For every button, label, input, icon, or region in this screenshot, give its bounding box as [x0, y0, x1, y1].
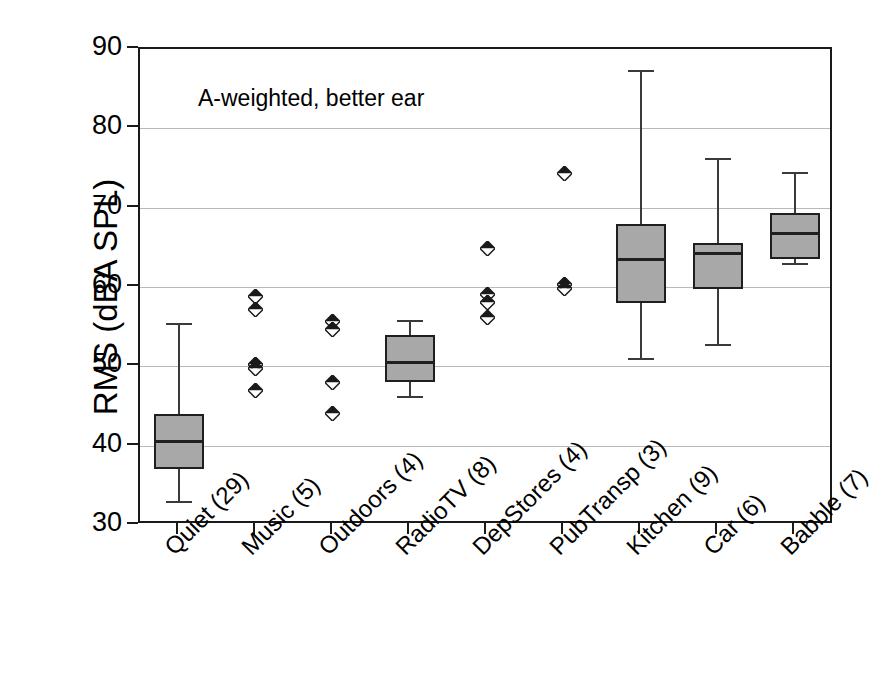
- whisker-cap-lower: [782, 263, 808, 265]
- data-point-marker: [480, 310, 495, 325]
- box-body: [385, 335, 435, 383]
- whisker-cap-lower: [628, 358, 654, 360]
- median-line: [693, 252, 743, 255]
- y-tick-label: 50: [62, 350, 122, 377]
- whisker-cap-upper: [397, 320, 423, 322]
- data-point-marker: [248, 383, 263, 398]
- gridline: [140, 128, 830, 129]
- data-point-marker: [480, 241, 495, 256]
- y-tick-label: 80: [62, 112, 122, 139]
- box-body: [770, 213, 820, 259]
- data-point-marker: [325, 406, 340, 421]
- data-point-marker: [325, 322, 340, 337]
- median-line: [154, 440, 204, 443]
- y-tick-mark: [127, 284, 138, 286]
- whisker-cap-lower: [705, 344, 731, 346]
- y-tick-mark: [127, 125, 138, 127]
- whisker-lower: [717, 289, 719, 345]
- whisker-cap-lower: [397, 396, 423, 398]
- plot-area: A-weighted, better ear: [138, 47, 832, 523]
- y-tick-label: 40: [62, 430, 122, 457]
- whisker-lower: [178, 469, 180, 501]
- whisker-cap-upper: [705, 158, 731, 160]
- gridline: [140, 208, 830, 209]
- whisker-cap-upper: [782, 172, 808, 174]
- y-tick-label: 60: [62, 271, 122, 298]
- box-body: [693, 243, 743, 288]
- whisker-cap-upper: [166, 323, 192, 325]
- box-body: [616, 224, 666, 303]
- whisker-upper: [794, 172, 796, 213]
- whisker-upper: [409, 320, 411, 334]
- whisker-upper: [640, 70, 642, 223]
- y-tick-label: 70: [62, 192, 122, 219]
- median-line: [385, 361, 435, 364]
- data-point-marker: [248, 302, 263, 317]
- data-point-marker: [248, 361, 263, 376]
- data-point-marker: [557, 281, 572, 296]
- data-point-marker: [557, 166, 572, 181]
- y-tick-mark: [127, 522, 138, 524]
- whisker-cap-lower: [166, 501, 192, 503]
- chart-annotation: A-weighted, better ear: [198, 85, 424, 112]
- whisker-cap-upper: [628, 70, 654, 72]
- y-tick-mark: [127, 205, 138, 207]
- y-tick-mark: [127, 443, 138, 445]
- gridline: [140, 366, 830, 367]
- y-tick-mark: [127, 46, 138, 48]
- data-point-marker: [480, 295, 495, 310]
- median-line: [616, 258, 666, 261]
- y-tick-label: 30: [62, 509, 122, 536]
- whisker-lower: [640, 303, 642, 359]
- y-tick-mark: [127, 363, 138, 365]
- whisker-lower: [409, 382, 411, 395]
- data-point-marker: [325, 375, 340, 390]
- whisker-upper: [717, 158, 719, 244]
- median-line: [770, 232, 820, 235]
- whisker-upper: [178, 323, 180, 414]
- gridline: [140, 446, 830, 447]
- y-tick-label: 90: [62, 33, 122, 60]
